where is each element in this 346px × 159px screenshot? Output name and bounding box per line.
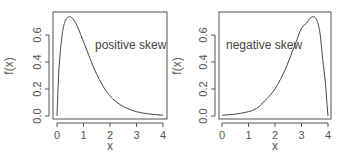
x-tick-label: 4 bbox=[160, 129, 166, 141]
y-tick-label: 0.2 bbox=[31, 81, 43, 96]
chart-canvas: 01234 0.00.20.40.6 x f(x) positive skew … bbox=[0, 0, 346, 159]
y-axis-title: f(x) bbox=[170, 57, 184, 74]
y-tick-label: 0.4 bbox=[31, 54, 43, 69]
y-tick-label: 0.2 bbox=[197, 81, 209, 96]
x-tick-label: 3 bbox=[133, 129, 139, 141]
x-axis-title: x bbox=[107, 139, 113, 153]
annotation-positive-skew: positive skew bbox=[95, 38, 167, 52]
y-axis-title: f(x) bbox=[2, 57, 16, 74]
x-tick-label: 4 bbox=[325, 129, 331, 141]
x-tick-label: 3 bbox=[298, 129, 304, 141]
y-tick-label: 0.0 bbox=[31, 108, 43, 123]
y-tick-label: 0.0 bbox=[197, 108, 209, 123]
chart-left: 01234 0.00.20.40.6 x f(x) positive skew bbox=[2, 12, 167, 153]
x-tick-label: 1 bbox=[80, 129, 86, 141]
x-tick-label: 1 bbox=[245, 129, 251, 141]
chart-right: 01234 0.00.20.40.6 x f(x) negative skew bbox=[170, 12, 331, 153]
y-tick-label: 0.6 bbox=[197, 27, 209, 42]
density-curve bbox=[222, 17, 328, 116]
y-tick-label: 0.6 bbox=[31, 27, 43, 42]
y-axis: 0.00.20.40.6 bbox=[197, 27, 215, 123]
x-tick-label: 0 bbox=[54, 129, 60, 141]
density-curve bbox=[57, 17, 163, 116]
x-tick-label: 0 bbox=[219, 129, 225, 141]
plot-frame bbox=[219, 12, 331, 119]
x-axis-title: x bbox=[272, 139, 278, 153]
y-axis: 0.00.20.40.6 bbox=[31, 27, 49, 123]
plot-frame bbox=[53, 12, 167, 119]
y-tick-label: 0.4 bbox=[197, 54, 209, 69]
annotation-negative-skew: negative skew bbox=[226, 38, 302, 52]
